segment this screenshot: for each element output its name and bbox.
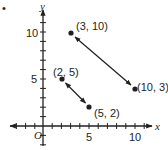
coordinate-plane: • xyxy=(0,0,168,150)
point-5-2 xyxy=(86,104,91,109)
x-tick-label-5: 5 xyxy=(86,131,92,143)
point-label-5-2: (5, 2) xyxy=(94,107,120,119)
segment-2-5-to-5-2 xyxy=(66,83,86,103)
x-axis xyxy=(10,123,152,129)
segment-3-10-to-10-3 xyxy=(75,37,131,85)
y-axis-label: y xyxy=(39,0,45,12)
x-axis-label: x xyxy=(154,120,160,132)
point-3-10 xyxy=(68,30,73,35)
point-label-10-3: (10, 3) xyxy=(137,81,168,93)
origin-label: O xyxy=(34,129,42,141)
y-tick-label-5: 5 xyxy=(31,73,37,85)
point-label-2-5: (2, 5) xyxy=(53,66,79,78)
y-tick-label-10: 10 xyxy=(26,27,38,39)
x-tick-label-10: 10 xyxy=(129,131,141,143)
figure-bullet: • xyxy=(2,2,6,14)
point-label-3-10: (3, 10) xyxy=(76,20,108,32)
